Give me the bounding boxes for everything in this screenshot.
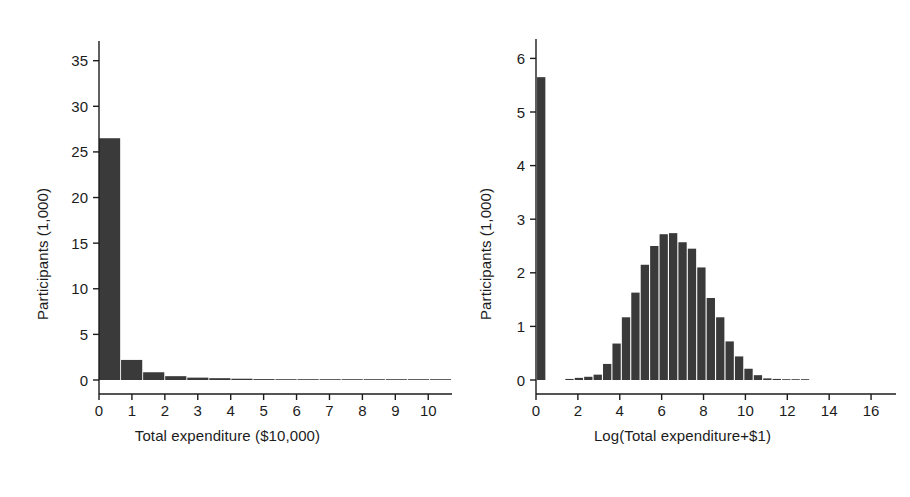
histogram-bar: [641, 265, 649, 380]
panel-total-expenditure: 05101520253035012345678910 Participants …: [0, 0, 455, 497]
histogram-bar: [612, 344, 620, 380]
x-tick-label: 8: [699, 402, 707, 419]
x-tick-label: 16: [863, 402, 880, 419]
histogram-bar: [165, 376, 186, 380]
histogram-bar: [801, 379, 809, 380]
x-tick-label: 9: [391, 402, 399, 419]
x-tick-label: 12: [779, 402, 796, 419]
x-tick-label: 7: [325, 402, 333, 419]
x-tick-label: 3: [194, 402, 202, 419]
histogram-bar: [688, 249, 696, 380]
y-tick-label: 3: [517, 211, 525, 228]
histogram-bar: [320, 379, 341, 380]
x-tick-label: 0: [532, 402, 540, 419]
x-tick-label: 10: [420, 402, 437, 419]
bars-group: [537, 77, 809, 380]
histogram-bar: [735, 356, 743, 380]
histogram-bar: [386, 379, 407, 380]
y-tick-label: 20: [71, 189, 88, 206]
histogram-bar: [669, 233, 677, 380]
bars-group: [99, 138, 451, 380]
x-tick-label: 4: [227, 402, 235, 419]
histogram-bar: [697, 267, 705, 380]
histogram-bar: [584, 377, 592, 380]
y-tick-label: 25: [71, 143, 88, 160]
x-axis-title-right: Log(Total expenditure+$1): [455, 427, 910, 444]
histogram-bar: [275, 379, 296, 380]
histogram-bar: [622, 317, 630, 380]
x-tick-label: 2: [574, 402, 582, 419]
panel-log-total-expenditure: 01234560246810121416 Participants (1,000…: [455, 0, 910, 497]
histogram-bar: [791, 379, 799, 380]
y-tick-label: 0: [517, 372, 525, 389]
histogram-bar: [298, 379, 319, 380]
x-tick-label: 1: [128, 402, 136, 419]
histogram-bar: [209, 378, 230, 380]
histogram-bar: [143, 372, 164, 380]
x-axis-title-left: Total expenditure ($10,000): [0, 427, 455, 444]
y-tick-label: 10: [71, 280, 88, 297]
log-total-expenditure-chart: 01234560246810121416: [455, 0, 910, 497]
x-tick-label: 5: [259, 402, 267, 419]
histogram-bar: [565, 379, 573, 380]
histogram-bar: [603, 364, 611, 380]
histogram-bar: [594, 375, 602, 380]
y-tick-label: 6: [517, 50, 525, 67]
histogram-bar: [660, 234, 668, 380]
y-tick-label: 5: [517, 104, 525, 121]
histogram-bar: [430, 379, 451, 380]
histogram-bar: [678, 242, 686, 380]
y-tick-label: 2: [517, 264, 525, 281]
histogram-bar: [744, 369, 752, 380]
histogram-bar: [631, 293, 639, 380]
x-tick-label: 14: [821, 402, 838, 419]
histogram-bar: [782, 379, 790, 380]
histogram-bar: [537, 77, 545, 380]
x-tick-label: 6: [657, 402, 665, 419]
y-tick-label: 30: [71, 98, 88, 115]
x-tick-label: 4: [616, 402, 624, 419]
y-tick-label: 1: [517, 318, 525, 335]
histogram-bar: [99, 138, 120, 380]
x-tick-label: 8: [358, 402, 366, 419]
histogram-bar: [342, 379, 363, 380]
histogram-bar: [231, 379, 252, 380]
histogram-bar: [121, 360, 142, 380]
x-tick-label: 6: [292, 402, 300, 419]
y-axis-title-left: Participants (1,000): [34, 188, 51, 320]
histogram-bar: [707, 298, 715, 380]
x-tick-label: 2: [161, 402, 169, 419]
x-tick-label: 0: [95, 402, 103, 419]
histogram-bar: [253, 379, 274, 380]
histogram-bar: [754, 375, 762, 380]
y-tick-label: 4: [517, 157, 525, 174]
histogram-bar: [650, 246, 658, 380]
histogram-bar: [187, 378, 208, 380]
histogram-bar: [773, 379, 781, 380]
total-expenditure-chart: 05101520253035012345678910: [0, 0, 455, 497]
histogram-bar: [575, 378, 583, 380]
histogram-bar: [364, 379, 385, 380]
y-tick-label: 15: [71, 235, 88, 252]
histogram-bar: [716, 317, 724, 380]
histogram-bar: [763, 378, 771, 380]
y-tick-label: 5: [80, 326, 88, 343]
histogram-bar: [726, 341, 734, 380]
histogram-bar: [408, 379, 429, 380]
y-axis-title-right: Participants (1,000): [477, 188, 494, 320]
two-panel-histogram-figure: 05101520253035012345678910 Participants …: [0, 0, 910, 497]
x-tick-label: 10: [737, 402, 754, 419]
y-tick-label: 35: [71, 52, 88, 69]
y-tick-label: 0: [80, 372, 88, 389]
